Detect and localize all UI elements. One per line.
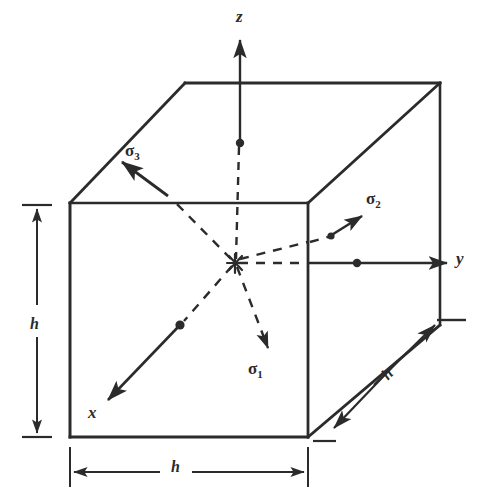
cube-front-face — [70, 203, 308, 437]
cube-wireframe — [70, 83, 440, 437]
stress-label-sigma2: σ2 — [366, 190, 381, 207]
dimension-label-width: h — [171, 459, 180, 475]
sigma2-subscript: 2 — [375, 198, 381, 210]
sigma2-dot — [327, 232, 334, 239]
sigma2-symbol: σ — [366, 189, 375, 208]
dimension-label-height: h — [30, 316, 39, 332]
axis-x-dot — [175, 320, 184, 329]
axis-label-z: z — [236, 8, 243, 25]
stress-arrow-sigma3 — [122, 162, 231, 259]
axis-x — [108, 266, 232, 400]
sigma3-symbol: σ — [125, 141, 134, 160]
stress-label-sigma3: σ3 — [125, 142, 140, 159]
axis-y — [239, 259, 447, 267]
axis-z-dot — [236, 139, 244, 147]
axis-label-y: y — [456, 250, 464, 267]
axis-y-dot — [353, 259, 361, 267]
cube-center-node — [227, 254, 245, 273]
figure-canvas — [0, 0, 490, 502]
dimension-width — [70, 447, 308, 487]
stress-arrow-sigma2 — [240, 216, 362, 259]
sigma1-symbol: σ — [248, 359, 257, 378]
sigma3-subscript: 3 — [134, 150, 140, 162]
axis-label-x: x — [88, 404, 97, 421]
axis-z — [236, 40, 244, 259]
stress-cube-figure: z y x σ3 σ2 σ1 h h h — [0, 0, 490, 502]
sigma1-subscript: 1 — [257, 368, 263, 380]
stress-arrow-sigma1 — [237, 267, 268, 348]
stress-label-sigma1: σ1 — [248, 360, 263, 377]
